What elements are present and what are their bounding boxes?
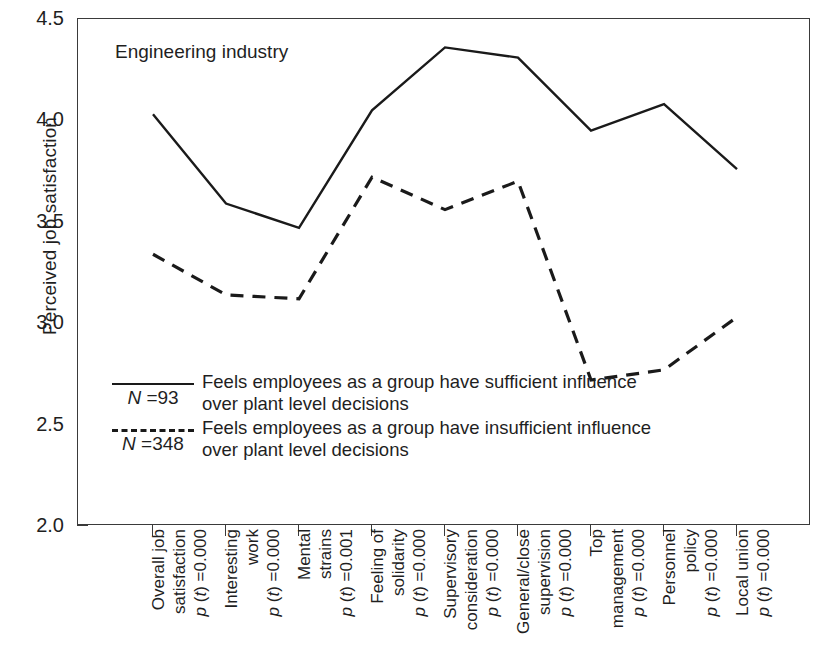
legend-text-dashed: Feels employees as a group have insuffic…	[202, 417, 651, 461]
x-category-line1: Personnel	[659, 529, 680, 606]
x-category-pvalue: p (t) =0.000	[753, 529, 774, 616]
x-category-label: Feeling ofsolidarityp (t) =0.000	[367, 529, 437, 667]
y-axis-tick-labels: 4.54.03.53.02.52.0	[0, 0, 64, 667]
y-tick-label: 4.0	[10, 109, 64, 129]
x-axis-category-labels: Overall jobsatisfactionp (t) =0.000Inter…	[77, 529, 810, 667]
y-tick-label: 3.0	[10, 312, 64, 332]
legend-line-solid-icon	[112, 383, 194, 385]
legend-text-dashed-line1: Feels employees as a group have insuffic…	[202, 417, 651, 438]
x-category-line1: Top	[586, 529, 607, 556]
series-line-sufficient-influence	[153, 47, 737, 227]
x-category-label: General/closesupervisionp (t) =0.000	[513, 529, 583, 667]
x-category-pvalue: p (t) =0.000	[263, 529, 284, 616]
x-category-pvalue: p (t) =0.000	[628, 529, 649, 616]
y-tick-label: 2.5	[10, 414, 64, 434]
x-category-line2: consideration	[461, 529, 482, 630]
x-category-line1: Overall job	[148, 529, 169, 610]
x-category-label: Mentalstrainsp (t) =0.001	[294, 529, 364, 667]
x-category-line1: Feeling of	[367, 529, 388, 604]
x-category-label: Supervisoryconsiderationp (t) =0.000	[440, 529, 510, 667]
legend-line-dashed-icon	[112, 429, 194, 432]
x-category-pvalue: p (t) =0.000	[482, 529, 503, 616]
x-category-label: Topmanagementp (t) =0.000	[586, 529, 656, 667]
legend-text-solid-line1: Feels employees as a group have sufficie…	[202, 371, 637, 392]
legend-n-dashed: N =348	[106, 433, 200, 455]
x-category-pvalue: p (t) =0.000	[555, 529, 576, 616]
x-category-line2: solidarity	[388, 529, 409, 596]
legend-n-solid: N =93	[106, 387, 200, 409]
legend-text-dashed-line2: over plant level decisions	[202, 439, 409, 460]
x-category-line2: supervision	[534, 529, 555, 615]
x-category-pvalue: p (t) =0.001	[336, 529, 357, 616]
x-category-line1: Supervisory	[440, 529, 461, 619]
x-category-line2: satisfaction	[169, 529, 190, 614]
x-category-line1: Interesting	[221, 529, 242, 608]
y-tick-label: 4.5	[10, 8, 64, 28]
x-category-label: Local unionp (t) =0.000	[732, 529, 802, 667]
x-category-line2: strains	[315, 529, 336, 579]
x-category-label: Personnelpolicyp (t) =0.000	[659, 529, 729, 667]
y-tick-label: 2.0	[10, 515, 64, 535]
x-category-pvalue: p (t) =0.000	[701, 529, 722, 616]
chart-figure: Perceived job satisfaction 4.54.03.53.02…	[0, 0, 827, 667]
y-tick-label: 3.5	[10, 211, 64, 231]
x-category-label: Overall jobsatisfactionp (t) =0.000	[148, 529, 218, 667]
x-category-pvalue: p (t) =0.000	[409, 529, 430, 616]
legend-text-solid: Feels employees as a group have sufficie…	[202, 371, 637, 415]
x-category-line2: work	[242, 529, 263, 565]
x-category-pvalue: p (t) =0.000	[190, 529, 211, 616]
legend: N =93 Feels employees as a group have su…	[106, 374, 706, 466]
legend-text-solid-line2: over plant level decisions	[202, 393, 409, 414]
x-category-line1: Mental	[294, 529, 315, 580]
x-category-line2: management	[607, 529, 628, 628]
x-category-line1: General/close	[513, 529, 534, 634]
legend-item-insufficient-influence: N =348 Feels employees as a group have i…	[106, 420, 706, 466]
x-category-line2: policy	[680, 529, 701, 572]
x-category-line1: Local union	[732, 529, 753, 616]
x-category-label: Interestingworkp (t) =0.000	[221, 529, 291, 667]
plot-area: Engineering industry N =93 Feels employe…	[77, 18, 810, 525]
legend-item-sufficient-influence: N =93 Feels employees as a group have su…	[106, 374, 706, 420]
